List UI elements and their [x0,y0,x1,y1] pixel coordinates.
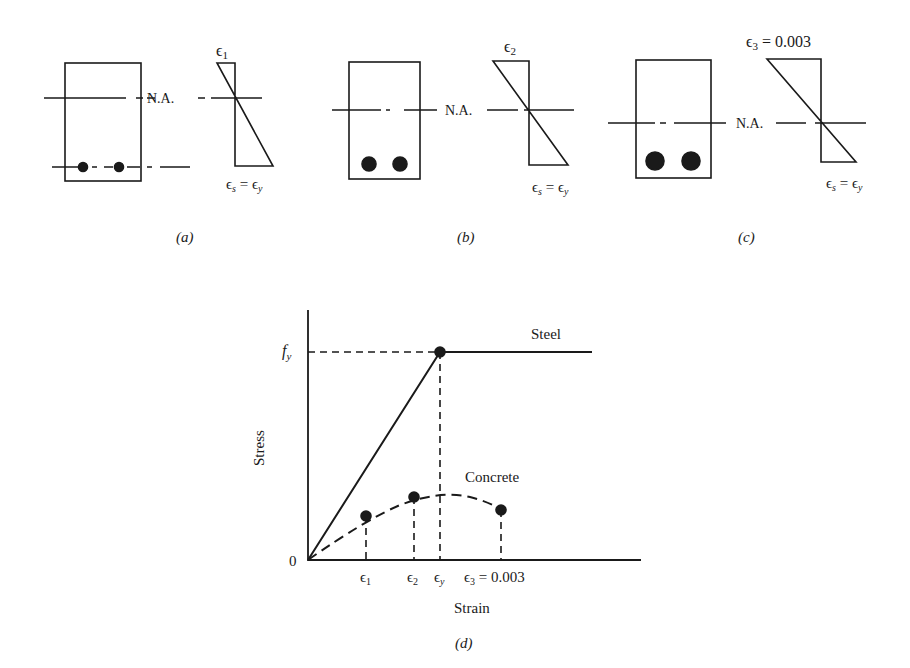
rebar-icon [79,163,88,172]
rebar-icon [646,152,664,170]
steel-curve [308,352,592,560]
rebar-icon [682,152,700,170]
x-axis-label: Strain [454,600,490,616]
caption-d: (d) [455,635,473,652]
stress-strain-chart [308,310,641,560]
na-label-b: N.A. [445,103,472,118]
na-label-c: N.A. [736,116,763,131]
rebar-icon [393,157,407,171]
beam-section-b [349,62,420,179]
x-tick-e2: ϵ2 [407,569,418,587]
caption-b: (b) [457,229,475,246]
rebar-icon [115,163,124,172]
bottom-strain-label-b: ϵs = ϵy [532,179,569,197]
chart-axes [308,310,641,560]
x-tick-e1: ϵ1 [360,569,371,587]
top-strain-label-c: ϵ3 = 0.003 [746,33,811,52]
e3-point-marker [496,505,506,515]
strain-diagram-c [767,59,856,162]
steel-series-label: Steel [531,326,561,342]
concrete-series-label: Concrete [465,469,519,485]
yield-point-marker [435,347,445,357]
y-axis-label: Stress [251,430,267,466]
caption-c: (c) [738,229,755,246]
x-tick-ey: ϵy [434,569,445,587]
na-label-a: N.A. [147,91,174,106]
strain-stress-figure: N.A. ϵ1 ϵs = ϵy (a) N.A. ϵ2 ϵs = ϵy (b) … [0,0,910,668]
fy-tick-label: fy [282,342,291,362]
top-strain-label-b: ϵ2 [504,38,516,57]
origin-label: 0 [289,553,297,569]
caption-a: (a) [176,229,194,246]
x-tick-e3: ϵ3 = 0.003 [464,569,525,587]
e2-point-marker [409,492,419,502]
bottom-strain-label-a: ϵs = ϵy [226,176,263,194]
beam-section-a [65,63,141,181]
strain-diagram-b [493,61,568,165]
concrete-curve [308,495,501,560]
top-strain-label-a: ϵ1 [216,42,228,61]
panel-b [332,61,574,179]
rebar-icon [362,157,376,171]
panel-a [44,63,273,181]
bottom-strain-label-c: ϵs = ϵy [826,175,863,193]
e1-point-marker [361,511,371,521]
strain-diagram-a [217,63,273,166]
